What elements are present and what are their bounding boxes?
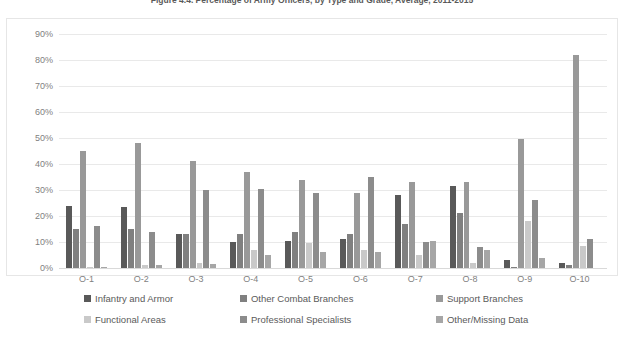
legend-swatch-icon: [436, 295, 443, 302]
legend-item-label: Support Branches: [447, 293, 523, 304]
bar-group: O-10: [552, 34, 607, 268]
bar: [230, 242, 236, 268]
plot-area: 0%10%20%30%40%50%60%70%80%90% O-1O-2O-3O…: [59, 34, 607, 268]
x-axis-tick-label: O-5: [278, 274, 333, 284]
bar: [265, 255, 271, 268]
bar: [142, 265, 148, 268]
legend-item[interactable]: Other Combat Branches: [210, 288, 414, 309]
bar: [464, 182, 470, 268]
legend-swatch-icon: [436, 316, 443, 323]
bar-group: O-4: [223, 34, 278, 268]
x-axis-tick-label: O-1: [59, 274, 114, 284]
legend-item-label: Other Combat Branches: [251, 293, 353, 304]
bar: [402, 224, 408, 268]
legend-item-label: Functional Areas: [95, 314, 166, 325]
bar: [525, 221, 531, 268]
bar: [197, 263, 203, 268]
legend-item-label: Professional Specialists: [251, 314, 351, 325]
bar: [87, 267, 93, 268]
x-axis-tick-label: O-2: [114, 274, 169, 284]
y-axis-tick-label: 60%: [35, 107, 53, 117]
legend-swatch-icon: [240, 316, 247, 323]
bar-group: O-5: [278, 34, 333, 268]
y-axis-tick-label: 0%: [40, 263, 53, 273]
bar-group-bars: [333, 34, 388, 268]
bar: [587, 239, 593, 268]
bar: [176, 234, 182, 268]
bar: [511, 267, 517, 268]
y-axis-tick-label: 70%: [35, 81, 53, 91]
x-axis-tick-label: O-9: [497, 274, 552, 284]
legend-item[interactable]: Professional Specialists: [210, 309, 414, 330]
bar-group: O-7: [388, 34, 443, 268]
chart-legend: Infantry and ArmorOther Combat BranchesS…: [6, 288, 618, 334]
legend-item[interactable]: Other/Missing Data: [414, 309, 618, 330]
bar-group-bars: [223, 34, 278, 268]
bar-group-bars: [278, 34, 333, 268]
bar: [299, 180, 305, 268]
y-axis-tick-label: 30%: [35, 185, 53, 195]
y-axis-tick-label: 80%: [35, 55, 53, 65]
bar-group-bars: [443, 34, 498, 268]
bar: [361, 250, 367, 268]
x-axis-tick-label: O-10: [552, 274, 607, 284]
bar: [423, 242, 429, 268]
bar: [484, 250, 490, 268]
bar: [518, 139, 524, 268]
bar-group: O-6: [333, 34, 388, 268]
bar: [477, 247, 483, 268]
bar: [340, 239, 346, 268]
bar: [101, 267, 107, 268]
bar-group-bars: [114, 34, 169, 268]
bar-group: O-8: [443, 34, 498, 268]
figure-title: Figure 4.4. Percentage of Army Officers,…: [0, 0, 624, 5]
bar-group: O-3: [169, 34, 224, 268]
x-axis-tick-label: O-6: [333, 274, 388, 284]
bar: [313, 193, 319, 268]
bar: [430, 241, 436, 268]
bar: [504, 260, 510, 268]
bar: [203, 190, 209, 268]
bar: [244, 172, 250, 268]
bar: [149, 232, 155, 268]
legend-swatch-icon: [84, 295, 91, 302]
y-axis-tick-label: 50%: [35, 133, 53, 143]
bar: [470, 263, 476, 268]
legend-item[interactable]: Functional Areas: [6, 309, 210, 330]
bar: [354, 193, 360, 268]
bar-group-bars: [552, 34, 607, 268]
bar: [121, 207, 127, 268]
bar: [580, 246, 586, 268]
bar-group-bars: [169, 34, 224, 268]
bar: [539, 258, 545, 268]
legend-item-label: Other/Missing Data: [447, 314, 528, 325]
bar: [320, 252, 326, 268]
bar: [66, 206, 72, 268]
bar: [135, 143, 141, 268]
bar: [190, 161, 196, 268]
y-axis-tick-label: 40%: [35, 159, 53, 169]
legend-item[interactable]: Infantry and Armor: [6, 288, 210, 309]
bar: [292, 232, 298, 268]
bar: [566, 265, 572, 268]
bar-group: O-1: [59, 34, 114, 268]
bar: [258, 189, 264, 268]
bar: [450, 186, 456, 268]
bar: [80, 151, 86, 268]
y-axis-tick-label: 10%: [35, 237, 53, 247]
x-axis-tick-label: O-4: [223, 274, 278, 284]
bar-group-bars: [59, 34, 114, 268]
bar-group-bars: [497, 34, 552, 268]
bar: [395, 195, 401, 268]
y-axis-tick-label: 90%: [35, 29, 53, 39]
legend-item[interactable]: Support Branches: [414, 288, 618, 309]
chart-frame: 0%10%20%30%40%50%60%70%80%90% O-1O-2O-3O…: [6, 18, 618, 276]
bar-group: O-2: [114, 34, 169, 268]
bar-group-bars: [388, 34, 443, 268]
bar: [416, 255, 422, 268]
bar: [375, 252, 381, 268]
bar: [573, 55, 579, 268]
bar: [306, 243, 312, 268]
bar: [457, 213, 463, 268]
bar: [94, 226, 100, 268]
